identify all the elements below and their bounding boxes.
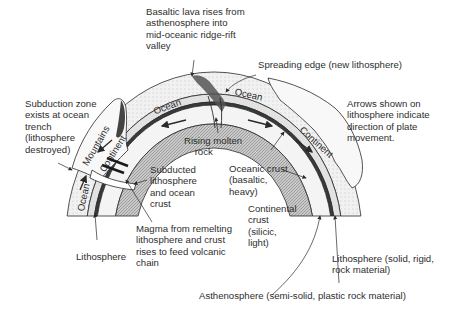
callout-lithosphere-right: Lithosphere (solid, rigid, rock material…	[332, 253, 434, 276]
callout-lithosphere-left: Lithosphere	[76, 251, 126, 262]
callout-rising-molten-rock: Rising molten rock	[184, 135, 242, 158]
callout-continental-crust: Continental crust (silicic, light)	[248, 203, 297, 249]
callout-arrows-note: Arrows shown on lithosphere indicate dir…	[347, 98, 430, 144]
callout-subduction-zone: Subduction zone exists at ocean trench (…	[25, 98, 96, 155]
callout-magma: Magma from remelting lithosphere and cru…	[136, 223, 232, 269]
callout-subducted-lithosphere: Subducted lithosphere and ocean crust	[150, 164, 197, 210]
callout-spreading-edge: Spreading edge (new lithosphere)	[258, 59, 402, 70]
callout-oceanic-crust: Oceanic crust (basaltic, heavy)	[229, 163, 288, 197]
callout-asthenosphere: Asthenosphere (semi-solid, plastic rock …	[199, 290, 406, 301]
callout-basaltic-lava: Basaltic lava rises from asthenosphere i…	[146, 6, 245, 52]
